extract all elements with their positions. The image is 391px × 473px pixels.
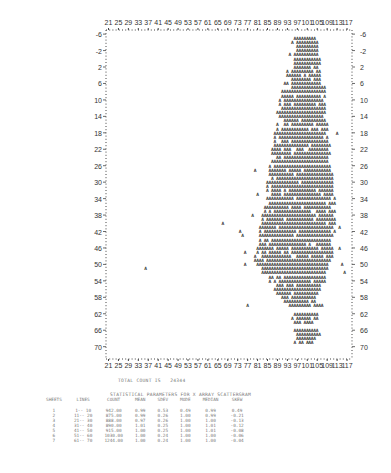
total-count-line: TOTAL COUNT IS 24344 [118,378,185,383]
x-tick-label-top: 61 [204,19,212,26]
y-tick-label-left: 54 [94,277,102,284]
outlier-point: A [244,250,247,255]
scatter-point: A [316,316,319,321]
x-tick-label-top: 85 [264,19,272,26]
outlier-point: A [244,262,247,267]
outlier-point: A [336,131,339,136]
stats-cell: 0.24 [151,438,174,443]
y-tick-label-left: 2 [98,64,102,71]
stats-cell: 1.00 [129,438,152,443]
y-tick-label-left: -6 [96,31,102,38]
x-tick-label-bottom: 117 [341,362,352,369]
y-tick-label-right: 2 [360,64,364,71]
x-tick-label-top: 53 [184,19,192,26]
stats-header-lines: LINES [68,397,99,408]
scatter-point: A [311,320,314,325]
stats-header-row: SHEETSLINESCOUNTMEANSDEVMODEMEDIANSKEW [40,397,250,408]
scatter-point: A [286,81,289,86]
x-tick-label-bottom: 25 [115,362,123,369]
y-tick-label-left: 22 [94,146,102,153]
stats-header-mode: MODE [174,397,197,408]
x-tick-label-bottom: 77 [244,362,252,369]
outlier-point: A [341,262,344,267]
x-tick-label-bottom: 21 [105,362,113,369]
stats-cell: 1244.00 [98,438,129,443]
x-tick-label-top: 93 [283,19,291,26]
x-tick-label-bottom: 93 [283,362,291,369]
x-tick-label-bottom: 61 [204,362,212,369]
scatter-point: A [311,340,314,345]
scatter-point: A [333,201,336,206]
x-tick-label-bottom: 89 [274,362,282,369]
y-tick-label-right: 70 [360,343,368,350]
y-tick-label-right: 14 [360,113,368,120]
y-tick-label-right: 38 [360,212,368,219]
y-tick-label-right: 66 [360,327,368,334]
x-tick-label-bottom: 57 [194,362,202,369]
outlier-point: A [221,221,224,226]
outlier-point: A [246,303,249,308]
outlier-point: A [256,192,259,197]
scatter-point: A [333,209,336,214]
x-tick-label-top: 49 [174,19,182,26]
scatter-point: A [291,40,294,45]
scatter-point: A [318,332,321,337]
outlier-point: A [343,270,346,275]
scatter-point: A [288,52,291,57]
y-tick-label-left: 14 [94,113,102,120]
outlier-point: A [144,266,147,271]
x-tick-label-bottom: 45 [164,362,172,369]
y-tick-label-right: 58 [360,294,368,301]
outlier-point: A [251,213,254,218]
outlier-point: A [338,225,341,230]
scatter-point: A [318,287,321,292]
x-tick-label-top: 57 [194,19,202,26]
y-tick-label-left: 42 [94,228,102,235]
x-tick-label-top: 65 [214,19,222,26]
y-tick-label-right: 26 [360,162,368,169]
x-tick-label-bottom: 65 [214,362,222,369]
scatter-point: A [328,151,331,156]
scatter-point: A [298,320,301,325]
y-tick-label-left: 34 [94,195,102,202]
x-tick-label-top: 97 [293,19,301,26]
scatter-point: A [328,143,331,148]
y-tick-label-left: 18 [94,129,102,136]
y-tick-label-left: 38 [94,212,102,219]
y-tick-label-right: 10 [360,96,368,103]
scatter-point: A [323,94,326,99]
stats-body: 11-- 10942.000.990.530.490.990.49211-- 2… [40,408,250,443]
y-tick-label-left: 46 [94,244,102,251]
y-tick-label-left: 6 [98,80,102,87]
scatter-point: A [331,233,334,238]
y-tick-label-right: 42 [360,228,368,235]
scatter-point: A [323,110,326,115]
y-tick-label-right: 22 [360,146,368,153]
outlier-point: A [241,233,244,238]
scatter-point: A [266,188,269,193]
x-tick-label-top: 29 [124,19,132,26]
y-tick-label-left: 10 [94,96,102,103]
outlier-point: A [254,168,257,173]
scatter-point: A [326,266,329,271]
scatter-point: A [316,291,319,296]
scatter-point: A [318,61,321,66]
stats-header-sdev: SDEV [151,397,174,408]
stats-cell: -0.04 [225,438,250,443]
x-tick-label-bottom: 69 [224,362,232,369]
y-tick-label-right: 6 [360,80,364,87]
scatter-point: A [331,254,334,259]
y-tick-label-right: 18 [360,129,368,136]
y-tick-label-right: 30 [360,179,368,186]
y-tick-label-left: 50 [94,261,102,268]
y-tick-label-left: 26 [94,162,102,169]
y-tick-label-right: -6 [360,31,366,38]
x-tick-label-top: 117 [341,19,352,26]
scatter-point: A [293,340,296,345]
scatter-point: A [301,340,304,345]
x-tick-label-bottom: 85 [264,362,272,369]
x-tick-label-bottom: 97 [293,362,301,369]
y-tick-label-right: 50 [360,261,368,268]
x-tick-label-top: 69 [224,19,232,26]
stats-table: SHEETSLINESCOUNTMEANSDEVMODEMEDIANSKEW 1… [40,397,250,443]
